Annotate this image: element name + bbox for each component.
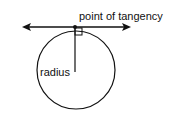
point-of-tangency-dot — [73, 25, 77, 29]
point-of-tangency-label: point of tangency — [79, 11, 163, 22]
radius-label: radius — [40, 67, 70, 78]
